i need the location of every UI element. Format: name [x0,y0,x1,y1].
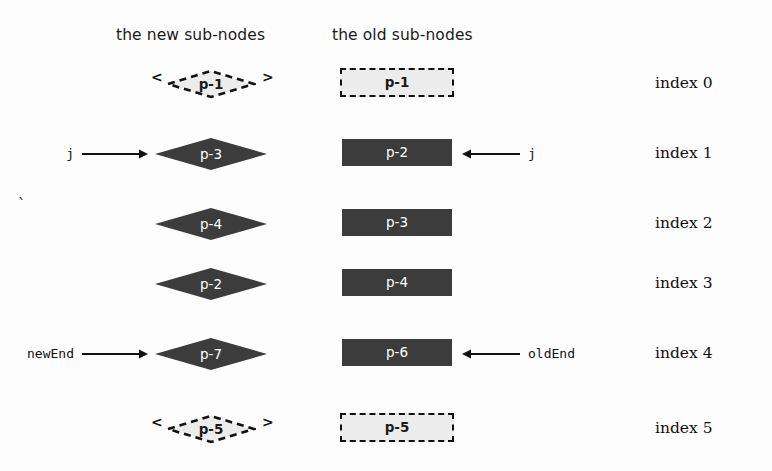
new-node-diamond: p-4 [155,208,267,240]
old-pointer-arrow-icon [462,147,520,161]
old-node-label: p-4 [386,274,408,290]
new-pointer-arrow-icon [82,347,148,361]
new-node-label: p-7 [200,346,222,362]
new-node-diamond: p-3 [155,138,267,170]
old-node-rect: p-2 [342,139,452,166]
old-pointer-label: j [528,146,536,161]
new-node-label: p-2 [200,276,222,292]
diagram-row: p-4p-3index 2 [0,195,772,253]
old-node-rect: p-3 [342,209,452,236]
new-pointer-arrow-icon [82,147,148,161]
old-node-ghost-rect: p-5 [340,413,454,442]
old-node-label: p-6 [386,344,408,360]
new-node-label: p-4 [200,216,222,232]
old-node-rect: p-6 [342,339,452,366]
angle-bracket-right-icon: > [262,414,274,430]
row-index-label: index 3 [655,274,713,292]
angle-bracket-right-icon: > [262,69,274,85]
diagram-row: p-2p-4index 3 [0,255,772,313]
row-index-label: index 5 [655,419,713,437]
new-pointer-label: j [14,146,74,161]
diagram-row: p-3p-2jjindex 1 [0,125,772,183]
old-node-label: p-1 [385,74,410,90]
old-node-ghost-rect: p-1 [340,68,454,97]
old-node-label: p-3 [386,214,408,230]
new-node-ghost-diamond: p-5 [166,414,256,444]
column-header-old-sub-nodes: the old sub-nodes [332,26,473,44]
new-node-diamond: p-2 [155,268,267,300]
diagram-row: < p-1>p-1index 0 [0,55,772,113]
diagram-row: p-7p-6newEndoldEndindex 4 [0,325,772,383]
row-index-label: index 0 [655,74,713,92]
old-pointer-label: oldEnd [528,346,575,361]
column-header-new-sub-nodes: the new sub-nodes [116,26,265,44]
angle-bracket-left-icon: < [151,414,163,430]
new-node-ghost-diamond: p-1 [166,69,256,99]
new-node-label: p-5 [166,414,256,444]
old-pointer-arrow-icon [462,347,520,361]
diagram-row: < p-5>p-5index 5 [0,400,772,458]
old-node-label: p-5 [385,419,410,435]
old-node-rect: p-4 [342,269,452,296]
new-node-diamond: p-7 [155,338,267,370]
new-node-label: p-3 [200,146,222,162]
row-index-label: index 1 [655,144,713,162]
new-pointer-label: newEnd [14,346,74,361]
new-node-label: p-1 [166,69,256,99]
angle-bracket-left-icon: < [151,69,163,85]
row-index-label: index 2 [655,214,713,232]
old-node-label: p-2 [386,144,408,160]
row-index-label: index 4 [655,344,713,362]
diagram-canvas: the new sub-nodes the old sub-nodes ` < … [0,0,772,471]
